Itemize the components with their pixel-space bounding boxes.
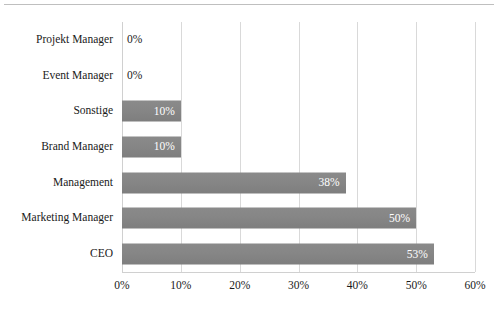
bar-row: Brand Manager 10% <box>122 129 475 165</box>
bar-value-label: 0% <box>127 34 142 46</box>
bar-row: Projekt Manager 0% <box>122 22 475 58</box>
gridline-60 <box>475 22 476 272</box>
x-tick-label: 50% <box>406 280 427 292</box>
bar: 10% <box>122 101 181 122</box>
bar-row: Sonstige 10% <box>122 93 475 129</box>
bar-value-label: 10% <box>154 141 175 153</box>
bar: 10% <box>122 136 181 157</box>
x-tick-label: 40% <box>347 280 368 292</box>
category-label: Management <box>53 177 113 189</box>
plot-area: Projekt Manager 0% Event Manager 0% Sons… <box>122 22 475 272</box>
bar: 50% <box>122 208 416 229</box>
x-axis-tick-labels: 0% 10% 20% 30% 40% 50% 60% <box>122 280 475 300</box>
bar-value-label: 50% <box>389 213 410 225</box>
x-tick-label: 0% <box>114 280 129 292</box>
bar-row: CEO 53% <box>122 236 475 272</box>
x-axis-line <box>122 272 475 273</box>
x-tick-label: 60% <box>464 280 485 292</box>
bar-row: Marketing Manager 50% <box>122 201 475 237</box>
bar-row: Management 38% <box>122 165 475 201</box>
bar: 38% <box>122 172 346 193</box>
category-label: Projekt Manager <box>36 34 113 46</box>
x-tick-label: 30% <box>288 280 309 292</box>
bar-chart: Projekt Manager 0% Event Manager 0% Sons… <box>0 0 498 313</box>
category-label: Event Manager <box>42 70 113 82</box>
category-label: Brand Manager <box>41 141 113 153</box>
bar-value-label: 53% <box>407 248 428 260</box>
category-label: CEO <box>90 248 113 260</box>
x-tick-label: 20% <box>229 280 250 292</box>
category-label: Sonstige <box>73 105 113 117</box>
bar-row: Event Manager 0% <box>122 58 475 94</box>
bar-value-label: 0% <box>127 70 142 82</box>
bar: 53% <box>122 244 434 265</box>
top-border-rule <box>4 4 494 5</box>
bar-value-label: 38% <box>319 177 340 189</box>
x-tick-label: 10% <box>170 280 191 292</box>
bar-value-label: 10% <box>154 105 175 117</box>
category-label: Marketing Manager <box>21 213 113 225</box>
